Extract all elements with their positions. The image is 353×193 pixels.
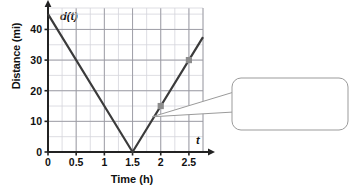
- axis-lines: [45, 0, 215, 155]
- data-line-series: [48, 14, 203, 152]
- plot-area: [0, 0, 353, 193]
- grid-major: [48, 8, 203, 152]
- chart-figure: Distance (mi) Time (h) d(t) t 010203040 …: [0, 0, 353, 193]
- callout-bubble: [152, 78, 348, 130]
